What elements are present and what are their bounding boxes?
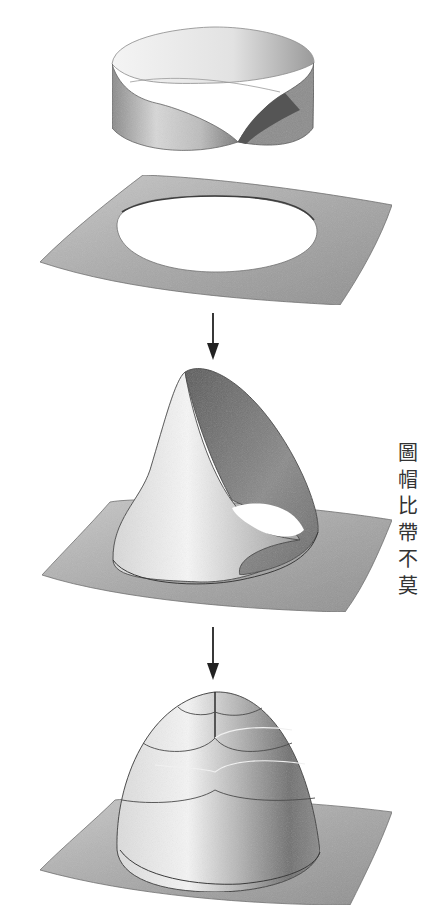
side-char: 莫 [398, 573, 422, 600]
plane-with-hole [40, 175, 392, 305]
mobius-strip [112, 27, 314, 150]
side-char: 比 [398, 493, 422, 520]
cross-cap [42, 369, 392, 612]
side-char: 帽 [398, 467, 422, 494]
down-arrow-1 [207, 313, 219, 360]
down-arrow-2 [207, 627, 219, 680]
dome-surface [40, 692, 392, 905]
side-char: 不 [398, 546, 422, 573]
side-char: 帶 [398, 520, 422, 547]
side-char: 圖 [398, 440, 422, 467]
side-caption-text: 圖 帽 比 帶 不 莫 [398, 440, 422, 599]
